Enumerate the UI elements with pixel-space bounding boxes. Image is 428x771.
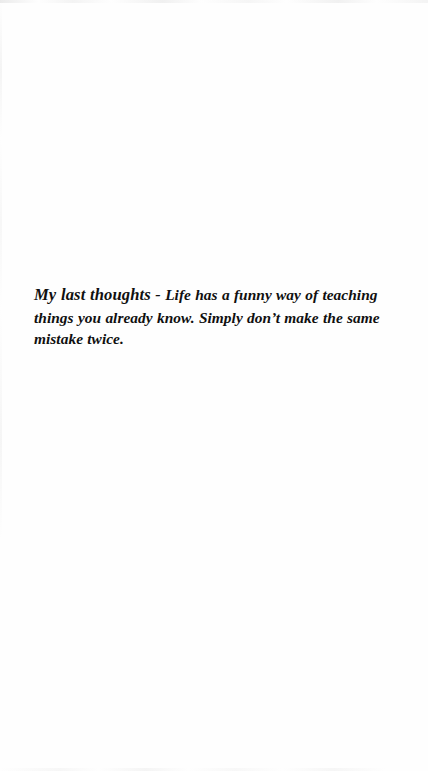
scan-edge-left (0, 0, 2, 771)
passage-block: My last thoughts - Life has a funny way … (34, 284, 398, 350)
page-canvas: My last thoughts - Life has a funny way … (0, 0, 428, 771)
passage-paragraph: My last thoughts - Life has a funny way … (34, 284, 398, 350)
passage-separator: - (151, 286, 165, 304)
scan-edge-top (0, 0, 428, 3)
passage-lead-in: My last thoughts (34, 285, 151, 304)
